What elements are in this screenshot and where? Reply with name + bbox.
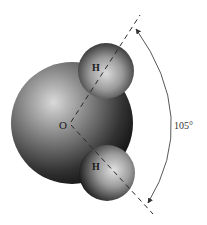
oxygen-label: O [59, 119, 67, 131]
hydrogen-sphere-top [78, 43, 134, 99]
water-molecule-diagram: O H H 105° [0, 0, 207, 225]
bond-angle-label: 105° [174, 120, 193, 131]
hydrogen-sphere-bottom [79, 145, 135, 201]
hydrogen-bottom-label: H [92, 161, 100, 172]
bond-angle-arc [136, 29, 171, 203]
hydrogen-top-label: H [92, 62, 100, 73]
